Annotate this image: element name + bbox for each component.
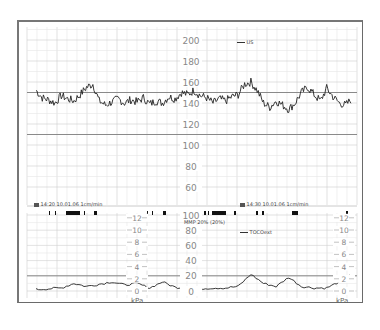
ctg-chart: 2001801601401201008060 100806040200 1210… bbox=[0, 0, 380, 330]
us-legend: US bbox=[237, 39, 253, 45]
svg-text:0: 0 bbox=[135, 287, 140, 296]
us-legend-label: US bbox=[247, 39, 254, 45]
svg-text:6: 6 bbox=[342, 250, 347, 259]
svg-text:160: 160 bbox=[182, 78, 199, 88]
printer-icon bbox=[34, 203, 39, 207]
toco-legend-label: TOCOext bbox=[250, 229, 272, 235]
svg-text:100: 100 bbox=[182, 141, 199, 151]
svg-text:0: 0 bbox=[342, 287, 347, 296]
svg-text:140: 140 bbox=[182, 99, 199, 109]
timestamp-left-label: 14:20 10.01.06 1cm/min bbox=[41, 201, 103, 207]
svg-text:60: 60 bbox=[185, 183, 197, 193]
svg-text:120: 120 bbox=[182, 120, 199, 130]
svg-text:12: 12 bbox=[339, 214, 349, 223]
svg-text:20: 20 bbox=[185, 271, 197, 281]
svg-text:80: 80 bbox=[185, 162, 197, 172]
legend-line-icon bbox=[237, 42, 245, 43]
svg-text:0: 0 bbox=[188, 287, 194, 297]
timestamp-left: 14:20 10.01.06 1cm/min bbox=[34, 201, 102, 207]
svg-text:200: 200 bbox=[182, 36, 199, 46]
timestamp-right: 14:30 10.01.06 1cm/min bbox=[240, 201, 308, 207]
svg-text:12: 12 bbox=[132, 214, 142, 223]
svg-text:8: 8 bbox=[135, 238, 140, 247]
mmp-annotation: MMP 20% (20%) bbox=[184, 219, 225, 225]
printer-icon bbox=[240, 203, 245, 207]
svg-text:80: 80 bbox=[185, 226, 197, 236]
svg-text:8: 8 bbox=[342, 238, 347, 247]
upper-grid bbox=[27, 27, 357, 205]
legend-line-icon bbox=[240, 232, 248, 233]
svg-text:2: 2 bbox=[342, 275, 347, 284]
toco-legend: TOCOext bbox=[240, 229, 272, 235]
svg-text:40: 40 bbox=[185, 256, 197, 266]
svg-text:10: 10 bbox=[132, 226, 142, 235]
svg-text:2: 2 bbox=[135, 275, 140, 284]
timestamp-right-label: 14:30 10.01.06 1cm/min bbox=[247, 201, 309, 207]
svg-text:10: 10 bbox=[339, 226, 349, 235]
svg-text:6: 6 bbox=[135, 250, 140, 259]
svg-text:4: 4 bbox=[135, 263, 140, 272]
kpa-unit-left: kPa bbox=[131, 297, 143, 305]
svg-text:180: 180 bbox=[182, 57, 199, 67]
svg-text:60: 60 bbox=[185, 241, 197, 251]
svg-text:4: 4 bbox=[342, 263, 347, 272]
kpa-unit-right: kPa bbox=[336, 297, 348, 305]
